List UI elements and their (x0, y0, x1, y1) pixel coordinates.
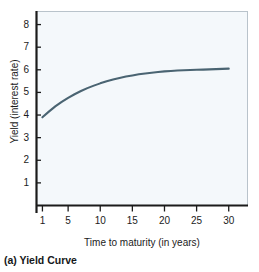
x-tick-label: 30 (218, 216, 240, 226)
figure-caption: (a) Yield Curve (4, 254, 77, 266)
yield-curve-figure: 12345678 151015202530 Yield (interest ra… (0, 0, 259, 272)
x-tick-label: 15 (121, 216, 143, 226)
x-tick-label: 1 (31, 216, 53, 226)
y-axis-title: Yield (interest rate) (9, 37, 20, 167)
y-tick-label: 8 (15, 20, 29, 30)
y-tick-label: 1 (15, 178, 29, 188)
x-tick-label: 25 (186, 216, 208, 226)
x-tick-label: 20 (153, 216, 175, 226)
x-tick-label: 5 (57, 216, 79, 226)
x-axis-title: Time to maturity (in years) (36, 237, 248, 248)
x-tick-label: 10 (89, 216, 111, 226)
yield-curve-line (42, 69, 228, 118)
chart-canvas (0, 0, 259, 272)
